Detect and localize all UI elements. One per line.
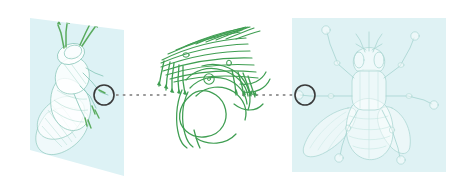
figure-canvas — [0, 0, 460, 190]
head-capsule-lobe — [180, 91, 226, 137]
spiracle-center — [208, 78, 211, 81]
lower-body-arc — [196, 134, 236, 143]
center-detail-group — [157, 27, 270, 148]
figure-container: Fly morphology magnification diagram Lat… — [0, 0, 460, 190]
left-panel-group — [30, 18, 124, 176]
